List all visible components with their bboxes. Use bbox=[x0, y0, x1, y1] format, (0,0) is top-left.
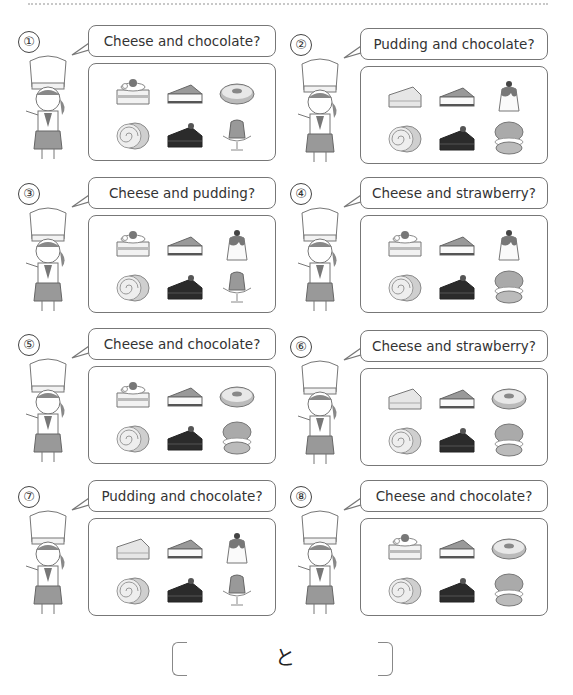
chocolate-cake-icon[interactable] bbox=[431, 266, 483, 308]
question-number: ④ bbox=[290, 183, 312, 205]
dessert-options-box bbox=[360, 215, 548, 313]
chef-girl-icon bbox=[22, 356, 74, 468]
donut-icon[interactable] bbox=[211, 375, 263, 417]
strawberry-shortcake-icon[interactable] bbox=[107, 375, 159, 417]
cheesecake-icon[interactable] bbox=[431, 377, 483, 419]
swiss-roll-icon[interactable] bbox=[379, 266, 431, 308]
cream-puff-icon[interactable] bbox=[483, 266, 535, 308]
jelly-pudding-icon[interactable] bbox=[211, 569, 263, 611]
swiss-roll-icon[interactable] bbox=[107, 114, 159, 156]
cheesecake-icon[interactable] bbox=[431, 75, 483, 117]
chef-girl-icon bbox=[22, 508, 74, 620]
swiss-roll-icon[interactable] bbox=[379, 117, 431, 159]
speech-bubble: Cheese and pudding? bbox=[88, 177, 276, 209]
sponge-cake-icon[interactable] bbox=[107, 527, 159, 569]
chef-girl-icon bbox=[294, 508, 346, 620]
question-number: ③ bbox=[18, 183, 40, 205]
answer-area: と bbox=[150, 630, 430, 678]
speech-bubble: Cheese and strawberry? bbox=[360, 330, 548, 362]
chef-girl-icon bbox=[294, 358, 346, 470]
chocolate-cake-icon[interactable] bbox=[431, 117, 483, 159]
strawberry-shortcake-icon[interactable] bbox=[379, 527, 431, 569]
question-panel: ⑧Cheese and chocolate? bbox=[290, 480, 560, 620]
question-number: ⑤ bbox=[18, 334, 40, 356]
donut-icon[interactable] bbox=[483, 527, 535, 569]
strawberry-shortcake-icon[interactable] bbox=[107, 72, 159, 114]
cheesecake-icon[interactable] bbox=[159, 224, 211, 266]
chocolate-cake-icon[interactable] bbox=[159, 114, 211, 156]
custard-pudding-icon[interactable] bbox=[211, 224, 263, 266]
speech-bubble: Pudding and chocolate? bbox=[88, 480, 276, 512]
chef-girl-icon bbox=[294, 56, 346, 168]
speech-bubble: Cheese and chocolate? bbox=[88, 328, 276, 360]
cream-puff-icon[interactable] bbox=[483, 419, 535, 461]
strawberry-shortcake-icon[interactable] bbox=[379, 224, 431, 266]
jelly-pudding-icon[interactable] bbox=[211, 114, 263, 156]
swiss-roll-icon[interactable] bbox=[107, 266, 159, 308]
swiss-roll-icon[interactable] bbox=[107, 417, 159, 459]
question-panel: ④Cheese and strawberry? bbox=[290, 177, 560, 317]
question-number: ② bbox=[290, 34, 312, 56]
jelly-pudding-icon[interactable] bbox=[211, 266, 263, 308]
cream-puff-icon[interactable] bbox=[483, 117, 535, 159]
dessert-options-box bbox=[88, 215, 276, 313]
speech-bubble: Cheese and strawberry? bbox=[360, 177, 548, 209]
speech-bubble: Cheese and chocolate? bbox=[360, 480, 548, 512]
sponge-cake-icon[interactable] bbox=[379, 75, 431, 117]
chef-girl-icon bbox=[294, 205, 346, 317]
cheesecake-icon[interactable] bbox=[431, 224, 483, 266]
cheesecake-icon[interactable] bbox=[159, 72, 211, 114]
dessert-options-box bbox=[88, 366, 276, 464]
chocolate-cake-icon[interactable] bbox=[159, 266, 211, 308]
speech-bubble: Pudding and chocolate? bbox=[360, 28, 548, 60]
question-panel: ②Pudding and chocolate? bbox=[290, 28, 560, 168]
donut-icon[interactable] bbox=[211, 72, 263, 114]
question-number: ⑦ bbox=[18, 486, 40, 508]
chef-girl-icon bbox=[22, 205, 74, 317]
custard-pudding-icon[interactable] bbox=[483, 224, 535, 266]
speech-bubble: Cheese and chocolate? bbox=[88, 25, 276, 57]
question-panel: ⑦Pudding and chocolate? bbox=[18, 480, 288, 620]
chef-girl-icon bbox=[22, 53, 74, 165]
chocolate-cake-icon[interactable] bbox=[431, 419, 483, 461]
answer-connector: と bbox=[270, 642, 300, 671]
cheesecake-icon[interactable] bbox=[159, 375, 211, 417]
swiss-roll-icon[interactable] bbox=[379, 419, 431, 461]
dessert-options-box bbox=[360, 368, 548, 466]
donut-icon[interactable] bbox=[483, 377, 535, 419]
dessert-options-box bbox=[88, 63, 276, 161]
custard-pudding-icon[interactable] bbox=[211, 527, 263, 569]
question-panel: ⑤Cheese and chocolate? bbox=[18, 328, 288, 468]
dessert-options-box bbox=[88, 518, 276, 616]
sponge-cake-icon[interactable] bbox=[379, 377, 431, 419]
strawberry-shortcake-icon[interactable] bbox=[107, 224, 159, 266]
cheesecake-icon[interactable] bbox=[431, 527, 483, 569]
dotted-top-border bbox=[28, 3, 548, 5]
chocolate-cake-icon[interactable] bbox=[159, 417, 211, 459]
question-number: ⑥ bbox=[290, 336, 312, 358]
cream-puff-icon[interactable] bbox=[483, 569, 535, 611]
right-bracket bbox=[378, 642, 393, 676]
dessert-options-box bbox=[360, 66, 548, 164]
swiss-roll-icon[interactable] bbox=[379, 569, 431, 611]
cream-puff-icon[interactable] bbox=[211, 417, 263, 459]
left-bracket bbox=[172, 642, 187, 676]
question-panel: ①Cheese and chocolate? bbox=[18, 25, 288, 165]
swiss-roll-icon[interactable] bbox=[107, 569, 159, 611]
chocolate-cake-icon[interactable] bbox=[431, 569, 483, 611]
custard-pudding-icon[interactable] bbox=[483, 75, 535, 117]
question-panel: ③Cheese and pudding? bbox=[18, 177, 288, 317]
question-number: ⑧ bbox=[290, 486, 312, 508]
question-panel: ⑥Cheese and strawberry? bbox=[290, 330, 560, 470]
dessert-options-box bbox=[360, 518, 548, 616]
cheesecake-icon[interactable] bbox=[159, 527, 211, 569]
question-number: ① bbox=[18, 31, 40, 53]
chocolate-cake-icon[interactable] bbox=[159, 569, 211, 611]
